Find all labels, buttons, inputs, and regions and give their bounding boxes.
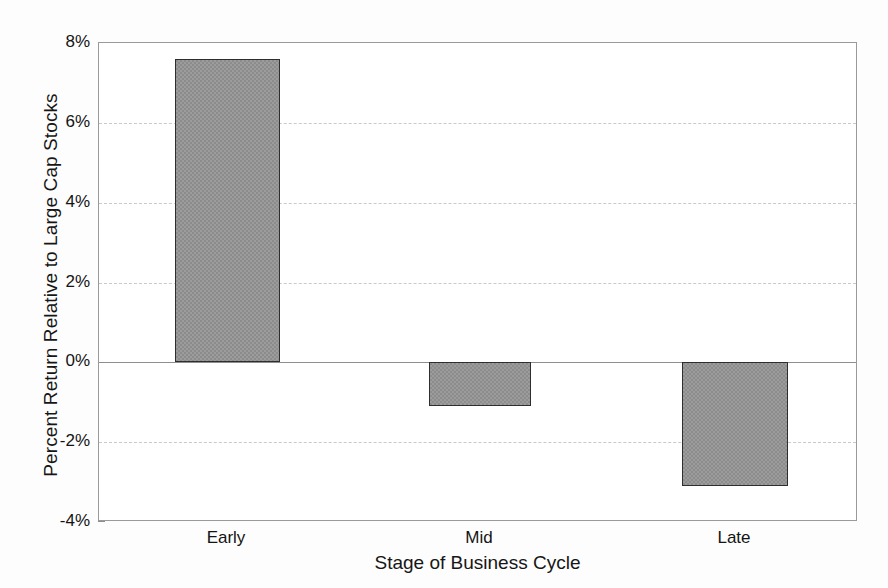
x-tick-label-late: Late [717,528,750,548]
y-tick-label: -2% [42,431,90,451]
bar-early [175,59,280,362]
plot-area [98,42,857,521]
x-tick-label-mid: Mid [465,528,492,548]
y-tick-label: 8% [42,32,90,52]
bar-late [682,362,788,486]
y-axis-tick-labels: 8% 6% 4% 2% 0% -2% -4% [38,42,90,521]
y-tick-label: 0% [42,351,90,371]
bar-mid [429,362,531,406]
x-tick-label-early: Early [207,528,246,548]
y-tick-label: -4% [42,511,90,531]
x-axis-label: Stage of Business Cycle [98,552,857,574]
y-tick-label: 4% [42,192,90,212]
y-tick-label: 2% [42,272,90,292]
bar-chart: Percent Return Relative to Large Cap Sto… [0,0,888,588]
y-tick-label: 6% [42,112,90,132]
y-tick-mark [98,521,105,522]
